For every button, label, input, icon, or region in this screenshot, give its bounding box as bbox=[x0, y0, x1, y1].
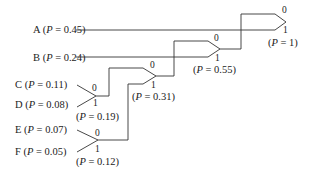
bit-label-ef-1: 1 bbox=[95, 144, 100, 154]
bit-label-root-1: 1 bbox=[283, 25, 288, 35]
merge-prob-cdef: (P = 0.31) bbox=[132, 91, 175, 103]
symbol-label-d: D (P = 0.08) bbox=[15, 99, 69, 111]
symbol-label-c: C (P = 0.11) bbox=[15, 79, 68, 91]
bit-label-root-0: 0 bbox=[282, 5, 287, 15]
bit-label-cd-1: 1 bbox=[93, 98, 98, 108]
huffman-diagram: A (P = 0.45) B (P = 0.24) C (P = 0.11) D… bbox=[0, 0, 311, 180]
merge-prob-cd: (P = 0.19) bbox=[76, 111, 119, 123]
symbol-label-b: B (P = 0.24) bbox=[33, 52, 86, 64]
wire-b bbox=[76, 49, 220, 57]
bit-label-bcdef-1: 1 bbox=[215, 53, 220, 63]
merge-prob-bcdef: (P = 0.55) bbox=[193, 64, 236, 76]
bit-label-cdef-0: 0 bbox=[150, 60, 155, 70]
symbol-label-f: F (P = 0.05) bbox=[15, 146, 67, 158]
bit-label-bcdef-0: 0 bbox=[214, 33, 219, 43]
symbol-label-e: E (P = 0.07) bbox=[15, 124, 68, 136]
merge-prob-ef: (P = 0.12) bbox=[76, 156, 119, 168]
bit-label-ef-0: 0 bbox=[95, 128, 100, 138]
bit-label-cd-0: 0 bbox=[92, 83, 97, 93]
merge-prob-root: (P = 1) bbox=[268, 37, 298, 49]
wire-a bbox=[76, 22, 286, 30]
bit-label-cdef-1: 1 bbox=[151, 80, 156, 90]
wire-031-bottom bbox=[98, 76, 156, 140]
